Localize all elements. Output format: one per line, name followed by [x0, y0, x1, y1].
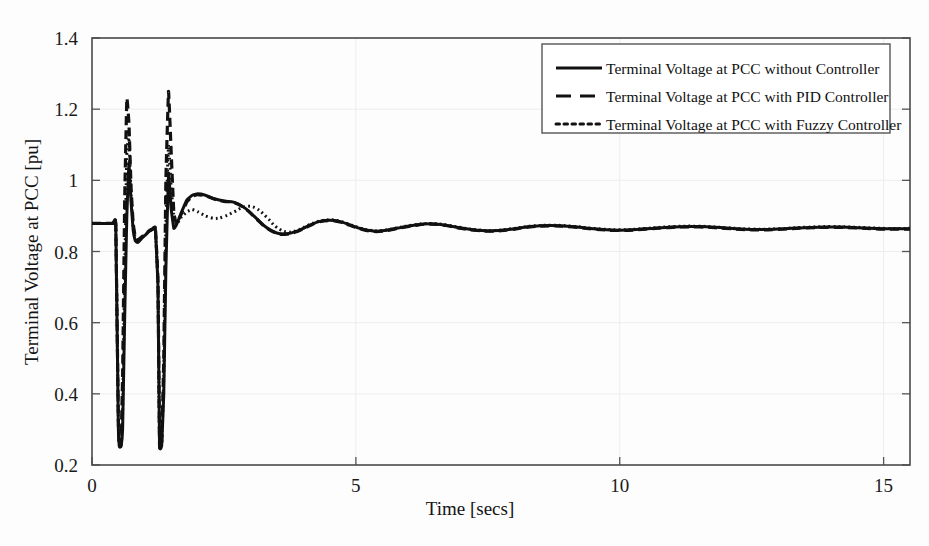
y-tick-label: 0.2: [54, 455, 78, 476]
chart-page: 0.20.40.60.811.21.4 051015 Terminal Volt…: [0, 0, 929, 546]
legend-items: Terminal Voltage at PCC without Controll…: [556, 60, 902, 133]
x-tick-label: 10: [610, 475, 629, 496]
legend-label: Terminal Voltage at PCC with PID Control…: [606, 88, 889, 105]
y-tick-label: 0.4: [54, 384, 78, 405]
y-axis-title: Terminal Voltage at PCC [pu]: [21, 139, 42, 365]
x-axis-title: Time [secs]: [426, 498, 515, 519]
legend-label: Terminal Voltage at PCC with Fuzzy Contr…: [606, 116, 902, 133]
y-tick-label: 0.8: [54, 242, 78, 263]
y-tick-label: 1.4: [54, 28, 78, 49]
y-tick-label: 1: [69, 170, 79, 191]
y-tick-label: 1.2: [54, 99, 78, 120]
x-tick-label: 5: [351, 475, 361, 496]
x-tick-label: 15: [874, 475, 893, 496]
y-tick-label: 0.6: [54, 313, 78, 334]
voltage-time-chart: 0.20.40.60.811.21.4 051015 Terminal Volt…: [0, 0, 929, 546]
legend[interactable]: Terminal Voltage at PCC without Controll…: [542, 44, 902, 133]
legend-label: Terminal Voltage at PCC without Controll…: [606, 60, 880, 77]
x-tick-label: 0: [87, 475, 97, 496]
